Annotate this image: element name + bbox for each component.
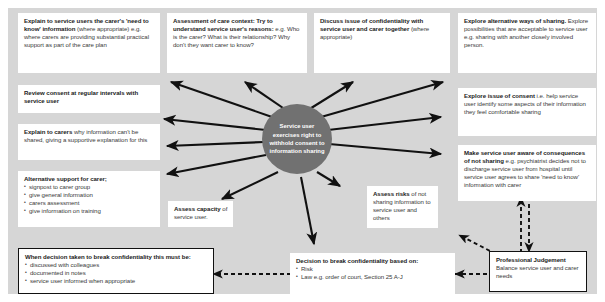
diagram-canvas: Explain to service users the carer's 'ne… [0, 0, 605, 302]
box-assess-risks: Assess risks of not sharing information … [367, 186, 438, 228]
hub-label: Service user exercises right to withhold… [267, 122, 327, 156]
list-item: give information on training [24, 207, 155, 215]
arrow-to-decision-basis [301, 177, 314, 244]
box-heading: Assess capacity [174, 205, 221, 212]
list-item: give general information [24, 191, 155, 199]
requirements-heading: When decision taken to break confidentia… [25, 253, 191, 260]
list-item: documented in notes [25, 269, 208, 277]
arrow-to-explore-alternative-sharing [321, 82, 443, 117]
box-professional-judgement: Professional Judgement Balance service u… [489, 251, 587, 292]
box-heading: Review consent at regular intervals with… [24, 89, 138, 104]
box-break-confidentiality-requirements: When decision taken to break confidentia… [18, 248, 214, 294]
box-assess-capacity: Assess capacity of service user. [168, 201, 233, 227]
decision-basis-list: Risk Law e.g. order of court, Section 25… [296, 265, 450, 281]
box-heading: Explore alternative ways of sharing. [464, 17, 566, 24]
alternative-support-list: signpost to carer group give general inf… [24, 183, 155, 215]
central-hub: Service user exercises right to withhold… [262, 104, 332, 174]
box-decision-basis: Decision to break confidentiality based … [290, 253, 455, 294]
box-explore-alternative-sharing: Explore alternative ways of sharing. Exp… [458, 13, 596, 73]
box-explain-to-carers: Explain to carers why information can't … [18, 124, 160, 160]
arrow-to-assess-risks [317, 172, 340, 186]
arrow-to-assess-capacity [222, 172, 278, 199]
box-review-consent: Review consent at regular intervals with… [18, 85, 160, 113]
box-body: Balance service user and carer needs [496, 264, 579, 279]
box-heading: Explore issue of consent [464, 92, 535, 99]
arrow-to-explain-to-carers [167, 142, 264, 146]
box-assessment-care-context: Assessment of care context: Try to under… [167, 13, 307, 73]
list-item: signpost to carer group [24, 183, 155, 191]
box-heading: Assessment of care context: Try to under… [173, 17, 274, 32]
box-heading: Assess risks [373, 190, 410, 197]
list-item: carers assessment [24, 199, 155, 207]
box-heading: Discuss issue of confidentiality with se… [320, 17, 423, 32]
box-explore-consent: Explore issue of consent i.e. help servi… [458, 88, 596, 136]
list-item: discussed with colleagues [25, 261, 208, 269]
box-consequences-not-sharing: Make service user aware of consequences … [458, 145, 596, 201]
list-item: service user informed when appropriate [25, 277, 208, 285]
requirements-list: discussed with colleagues documented in … [25, 261, 208, 285]
arrow-to-alternative-support [167, 155, 266, 174]
list-item: Risk [296, 265, 450, 273]
alternative-support-heading: Alternative support for carer; [24, 175, 107, 182]
box-heading: Explain to carers [24, 128, 72, 135]
arrow-to-discuss-confidentiality [308, 82, 353, 110]
box-discuss-confidentiality: Discuss issue of confidentiality with se… [314, 13, 450, 73]
arrow-to-explore-consent [328, 117, 441, 130]
arrow-to-consequences-not-sharing [329, 144, 441, 154]
arrow-to-assessment-care-context [245, 82, 286, 110]
box-heading: Professional Judgement [496, 256, 566, 263]
list-item: Law e.g. order of court, Section 25 A-J [296, 273, 450, 281]
box-alternative-support: Alternative support for carer; signpost … [18, 171, 160, 227]
arrow-to-review-consent [164, 119, 266, 130]
box-explain-need-to-know: Explain to service users the carer's 'ne… [18, 13, 160, 73]
decision-basis-heading: Decision to break confidentiality based … [296, 257, 418, 264]
arrow-to-explain-need-to-know [171, 82, 272, 117]
